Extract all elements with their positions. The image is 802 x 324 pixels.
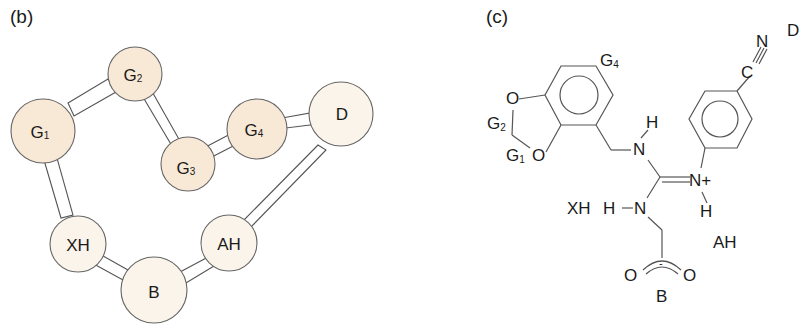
node-d: D [309,82,373,146]
atom-h-top: H [646,113,658,132]
node-xh: XH [50,216,106,272]
atom-h-right: H [700,202,712,221]
svg-text:XH: XH [66,236,90,255]
atom-o-top: O [506,89,519,108]
atom-n-plus: N+ [689,171,711,190]
label-g2: G2 [487,114,506,133]
label-xh: XH [567,199,591,218]
node-ah: AH [201,215,257,271]
stick-g1-xh [44,158,73,218]
panel-b-schematic: (b) G1 G2 G3 G4 [0,0,400,324]
node-g4: G4 [227,99,287,159]
node-g2: G2 [108,47,162,101]
atom-o-right: O [683,266,696,285]
atom-c-nitrile: C [741,63,753,82]
schematic-diagram: G1 G2 G3 G4 D XH B AH [0,0,400,324]
svg-text:AH: AH [217,235,241,254]
svg-text:B: B [148,283,159,302]
label-d: D [787,21,799,40]
atom-n-left: N [634,199,646,218]
stick-g1-g2 [68,79,116,116]
atom-n-top: N [633,140,645,159]
svg-text:D: D [336,105,348,124]
charge-minus: - [659,257,663,269]
atom-o-bottom: O [532,146,545,165]
benzene-ring-left [545,66,613,125]
atom-h-left: H [603,199,615,218]
panel-c-structure: (c) [400,0,802,324]
label-b: B [656,287,667,306]
label-g4: G4 [600,51,619,70]
chemical-structure: G4 O G2 G1 O H N N+ H XH H N AH O O - B … [400,0,802,324]
label-g1: G1 [506,146,525,165]
atom-o-left: O [624,266,637,285]
atom-n-nitrile: N [756,32,768,51]
label-ah: AH [713,233,737,252]
benzene-ring-right [689,91,752,148]
node-g1: G1 [11,99,75,163]
node-g3: G3 [161,137,215,191]
node-b: B [121,257,187,323]
